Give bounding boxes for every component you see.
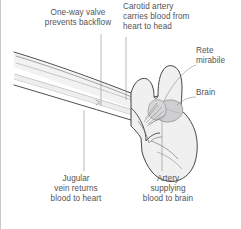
neck-group xyxy=(14,52,141,123)
label-carotid-artery: Carotid artery carries blood from heart … xyxy=(123,2,219,33)
label-artery-to-brain: Artery supplying blood to brain xyxy=(124,174,212,205)
label-jugular-vein: Jugular vein returns blood to heart xyxy=(26,174,126,205)
head-outline-shape xyxy=(131,66,197,182)
figure-canvas: One-way valve prevents backflow Carotid … xyxy=(0,0,241,229)
head-group xyxy=(131,66,197,182)
label-brain: Brain xyxy=(196,88,240,98)
label-one-way-valve: One-way valve prevents backflow xyxy=(26,8,130,28)
label-rete-mirabile: Rete mirabile xyxy=(196,46,240,66)
